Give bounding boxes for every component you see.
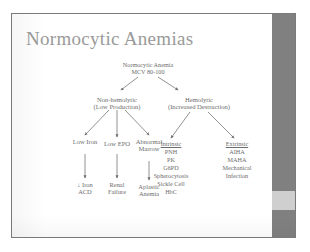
list-item: Spherocytosis [154, 172, 189, 180]
node-renal-failure-line1: Renal [108, 181, 126, 188]
arrow-root-to-nonhemolytic [121, 77, 138, 90]
list-item: PK [154, 156, 189, 164]
node-hemolytic-line2: (Increased Destruction) [168, 103, 230, 110]
list-item: Mechanical [223, 164, 252, 172]
node-iron-acd-line2: ACD [77, 188, 92, 195]
list-item: G6PD [154, 164, 189, 172]
node-renal-failure-line2: Failure [108, 188, 126, 195]
node-renal-failure: Renal Failure [108, 181, 126, 195]
node-nonhemolytic-line1: Non-hemolytic [93, 96, 140, 103]
slide-screenshot: Normocytic Anemias [0, 0, 310, 252]
list-item: Sickle Cell [154, 180, 189, 188]
scrollbar-thumb[interactable] [272, 191, 295, 210]
node-iron-acd-line1: ↓ Iron [77, 181, 92, 188]
arrow-nonhemolytic-to-abnormal-marrow [125, 110, 149, 135]
list-item: HbC [154, 188, 189, 196]
list-item: PNH [154, 148, 189, 156]
node-hemolytic: Hemolytic (Increased Destruction) [168, 96, 230, 111]
vertical-scrollbar[interactable] [272, 14, 295, 237]
node-low-iron: Low Iron [73, 138, 98, 145]
node-nonhemolytic-line2: (Low Production) [93, 103, 140, 110]
list-item: AIHA [223, 148, 252, 156]
arrow-root-to-hemolytic [158, 77, 178, 90]
node-low-epo-line1: Low EPO [104, 140, 130, 147]
arrow-nonhemolytic-to-low-iron [85, 110, 109, 135]
node-intrinsic-heading: Intrinsic [154, 140, 189, 148]
node-root-line2: MCV 80-100 [123, 69, 173, 76]
arrow-hemolytic-to-extrinsic [208, 112, 234, 138]
flowchart-arrows [12, 14, 274, 237]
node-iron-acd: ↓ Iron ACD [77, 181, 92, 195]
node-extrinsic-heading: Extrinsic [223, 140, 252, 148]
node-extrinsic-list: Extrinsic AIHA MAHA Mechanical Infection [223, 140, 252, 180]
node-non-hemolytic: Non-hemolytic (Low Production) [93, 96, 140, 111]
slide-frame: Normocytic Anemias [11, 13, 296, 238]
node-low-iron-line1: Low Iron [73, 138, 98, 145]
arrow-hemolytic-to-intrinsic [171, 112, 190, 138]
node-normocytic-anemia: Normocytic Anemia MCV 80-100 [123, 62, 173, 76]
node-hemolytic-line1: Hemolytic [168, 96, 230, 103]
list-item: MAHA [223, 156, 252, 164]
node-intrinsic-list: Intrinsic PNH PK G6PD Spherocytosis Sick… [154, 140, 189, 196]
list-item: Infection [223, 172, 252, 180]
slide-canvas: Normocytic Anemias [12, 14, 274, 237]
node-low-epo: Low EPO [104, 140, 130, 147]
